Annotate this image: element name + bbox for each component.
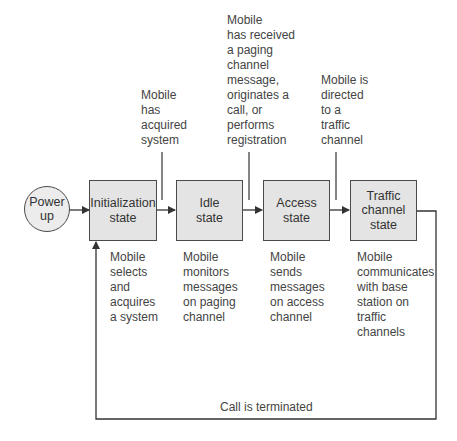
transition-label-call-terminated: Call is terminated xyxy=(220,400,313,415)
state-description-access: Mobile sends messages on access channel xyxy=(270,250,325,325)
power-up-node: Power up xyxy=(24,186,70,232)
transition-label-idle-to-access: Mobile has received a paging channel mes… xyxy=(227,13,295,148)
state-access: Access state xyxy=(263,180,330,241)
state-description-traffic: Mobile communicates with base station on… xyxy=(357,250,434,340)
transition-label-access-to-traffic: Mobile is directed to a traffic channel xyxy=(321,73,368,148)
state-description-idle: Mobile monitors messages on paging chann… xyxy=(183,250,238,325)
transition-label-init-to-idle: Mobile has acquired system xyxy=(141,88,187,148)
state-idle: Idle state xyxy=(176,180,243,241)
state-traffic-channel: Traffic channel state xyxy=(350,180,417,241)
state-description-initialization: Mobile selects and acquires a system xyxy=(110,250,158,325)
state-initialization: Initialization state xyxy=(89,180,157,241)
